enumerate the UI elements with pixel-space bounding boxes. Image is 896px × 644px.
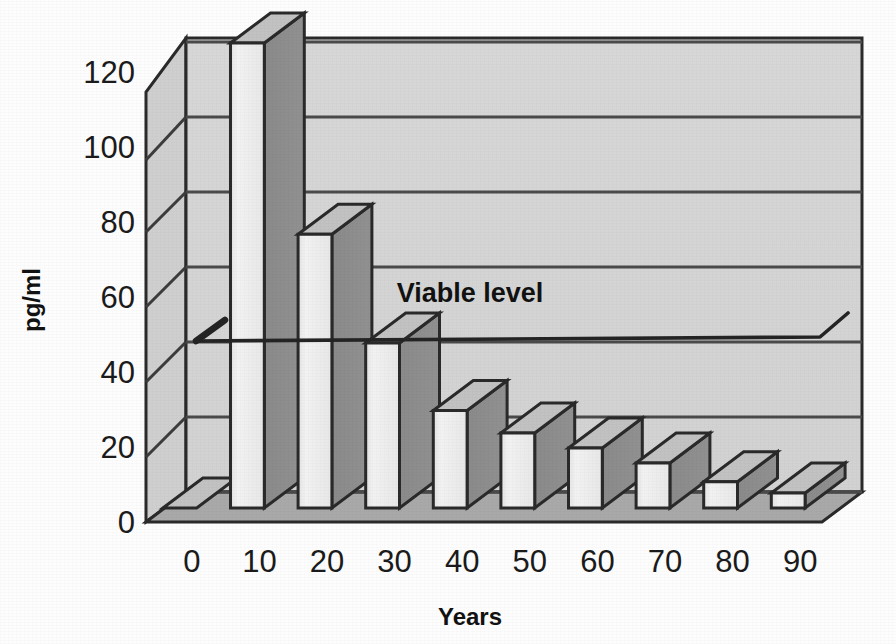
bar-group-20[interactable] bbox=[298, 204, 372, 508]
y-tick-label-80: 80 bbox=[101, 205, 135, 240]
bar-front-face bbox=[501, 433, 535, 508]
y-tick-label-100: 100 bbox=[83, 130, 135, 165]
y-tick-label-20: 20 bbox=[101, 430, 135, 465]
x-tick-label-50: 50 bbox=[513, 544, 547, 579]
bar-front-face bbox=[366, 343, 400, 508]
chart-canvas: Viable level 020406080100120 01020304050… bbox=[0, 0, 896, 644]
x-tick-label-80: 80 bbox=[715, 544, 749, 579]
x-tick-label-90: 90 bbox=[783, 544, 817, 579]
x-tick-label-70: 70 bbox=[648, 544, 682, 579]
x-axis-tick-labels: 0102030405060708090 bbox=[183, 544, 817, 579]
viable-level-label: Viable level bbox=[397, 278, 544, 308]
bar-front-face bbox=[636, 463, 670, 508]
y-tick-label-60: 60 bbox=[101, 280, 135, 315]
bar-front-face bbox=[771, 493, 805, 508]
x-tick-label-0: 0 bbox=[183, 544, 200, 579]
y-axis-title: pg/ml bbox=[18, 268, 45, 332]
x-tick-label-30: 30 bbox=[377, 544, 411, 579]
y-tick-label-40: 40 bbox=[101, 355, 135, 390]
bar-front-face bbox=[231, 43, 265, 508]
bar-front-face bbox=[433, 411, 467, 509]
y-tick-label-0: 0 bbox=[118, 505, 135, 540]
bar-front-face bbox=[704, 482, 738, 508]
bar-group-10[interactable] bbox=[231, 13, 305, 508]
bar-chart-3d: Viable level 020406080100120 01020304050… bbox=[0, 0, 896, 644]
x-tick-label-40: 40 bbox=[445, 544, 479, 579]
x-axis-title: Years bbox=[438, 603, 502, 630]
x-tick-label-20: 20 bbox=[310, 544, 344, 579]
y-axis-tick-labels: 020406080100120 bbox=[83, 55, 135, 540]
bar-front-face bbox=[298, 234, 332, 508]
bar-group-30[interactable] bbox=[366, 313, 440, 508]
bar-front-face bbox=[569, 448, 603, 508]
y-tick-label-120: 120 bbox=[83, 55, 135, 90]
x-tick-label-60: 60 bbox=[580, 544, 614, 579]
x-tick-label-10: 10 bbox=[242, 544, 276, 579]
